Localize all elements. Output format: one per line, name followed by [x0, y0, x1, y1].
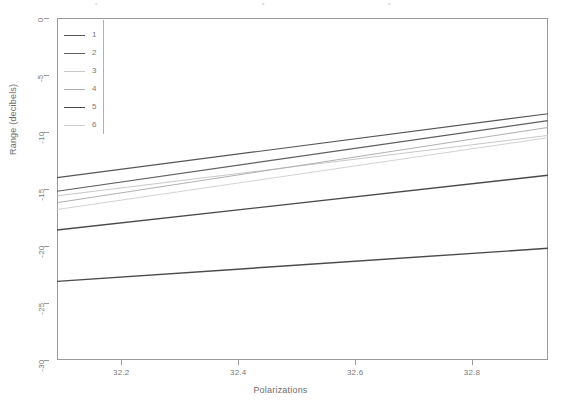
legend-item[interactable]: 2 — [59, 44, 103, 62]
legend-item-label: 3 — [92, 67, 96, 75]
y-tick-label: 0 — [37, 18, 46, 23]
y-axis: 0-5-10-15-20-25-30 — [0, 0, 57, 412]
series-line — [57, 135, 548, 195]
artifact-mark: • — [95, 0, 97, 7]
x-tick-label: 32.6 — [347, 368, 363, 377]
y-tick-label: -15 — [37, 189, 46, 201]
artifact-mark: • — [388, 0, 390, 7]
legend-color-swatch — [64, 104, 85, 111]
plot-lines — [57, 18, 548, 360]
legend-item[interactable]: 1 — [59, 26, 103, 44]
series-lines-group — [57, 114, 548, 282]
legend-color-swatch — [64, 32, 85, 39]
series-line — [57, 175, 548, 230]
y-tick-label: -10 — [37, 132, 46, 144]
legend-color-swatch — [64, 50, 85, 57]
series-line — [57, 138, 548, 210]
y-tick-label: -5 — [37, 75, 46, 83]
clipped-top-artifact: • • • — [0, 0, 561, 7]
legend-color-swatch — [64, 122, 85, 129]
legend-item-label: 1 — [92, 31, 96, 39]
legend-box: 1 2 3 4 5 6 — [59, 20, 104, 134]
x-tick-label: 32.8 — [464, 368, 480, 377]
x-tick-mark — [238, 360, 239, 365]
chart-figure: • • • 0-5-10-15-20-25-30 Range (decibels… — [0, 0, 561, 412]
x-tick-label: 32.2 — [113, 368, 129, 377]
y-tick-label: -20 — [37, 246, 46, 258]
legend-item-label: 2 — [92, 49, 96, 57]
y-axis-title: Range (decibels) — [8, 84, 18, 155]
y-tick-label: -25 — [37, 303, 46, 315]
series-line — [57, 114, 548, 178]
x-tick-mark — [355, 360, 356, 365]
x-tick-label: 32.4 — [230, 368, 246, 377]
legend-color-swatch — [64, 68, 85, 75]
series-line — [57, 127, 548, 202]
series-line — [57, 248, 548, 281]
x-tick-mark — [472, 360, 473, 365]
x-axis-title: Polarizations — [0, 385, 561, 395]
legend-color-swatch — [64, 86, 85, 93]
legend-item[interactable]: 5 — [59, 98, 103, 116]
legend-item[interactable]: 6 — [59, 116, 103, 134]
legend-item-label: 6 — [92, 121, 96, 129]
artifact-mark: • — [262, 0, 264, 7]
legend-item[interactable]: 3 — [59, 62, 103, 80]
legend-item[interactable]: 4 — [59, 80, 103, 98]
x-tick-mark — [121, 360, 122, 365]
legend-item-label: 5 — [92, 103, 96, 111]
legend-item-label: 4 — [92, 85, 96, 93]
series-line — [57, 121, 548, 192]
